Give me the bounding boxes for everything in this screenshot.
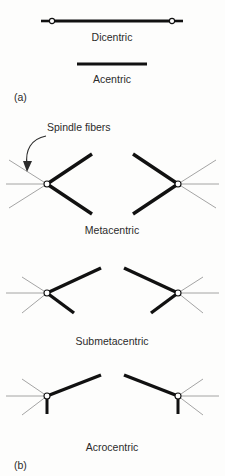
chromosome-arm-1	[47, 293, 74, 313]
label-submetacentric: Submetacentric	[76, 335, 149, 347]
centromere	[44, 393, 50, 399]
chromosome-arm-0	[47, 154, 92, 184]
annotation-arrow-curve	[27, 136, 46, 165]
centromere	[44, 290, 50, 296]
spindle-fiber-2	[22, 396, 47, 415]
centromere-0	[49, 18, 54, 23]
centromere-1	[169, 18, 174, 23]
spindle-fiber-2	[22, 293, 47, 313]
chromosome-dicentric	[41, 18, 183, 23]
acrocentric-right-half	[124, 375, 219, 415]
label-metacentric: Metacentric	[85, 224, 139, 236]
label-acrocentric: Acrocentric	[86, 441, 139, 453]
chromosome-arm-0	[47, 268, 101, 293]
centromere	[175, 290, 181, 296]
centromere	[175, 393, 181, 399]
chromosome-figure: DicentricAcentric(a) MetacentricSubmetac…	[0, 0, 225, 476]
chromosome-submetacentric	[6, 268, 219, 313]
spindle-fiber-2	[178, 293, 203, 313]
chromosome-arm-0	[124, 268, 178, 293]
submetacentric-left-half	[6, 268, 101, 313]
centromere	[175, 181, 181, 187]
metacentric-left-half	[6, 154, 92, 214]
spindle-fiber-1	[178, 277, 203, 293]
spindle-fiber-1	[178, 160, 216, 184]
spindle-fiber-2	[178, 396, 203, 415]
panel-b-caption: (b)	[14, 459, 27, 471]
spindle-fiber-2	[9, 184, 47, 208]
chromosome-metacentric	[6, 154, 219, 214]
metacentric-right-half	[133, 154, 219, 214]
panel-a: DicentricAcentric(a)	[14, 18, 183, 103]
annotation-arrow-head	[23, 161, 32, 172]
centromere	[44, 181, 50, 187]
chromosome-arm-1	[151, 293, 178, 313]
spindle-fiber-2	[178, 184, 216, 208]
spindle-fibers-annotation	[23, 136, 46, 172]
chromosome-acrocentric	[6, 375, 219, 415]
label-acentric: Acentric	[93, 73, 131, 85]
spindle-fiber-1	[178, 379, 203, 396]
spindle-fiber-1	[22, 277, 47, 293]
spindle-fiber-1	[22, 379, 47, 396]
submetacentric-right-half	[124, 268, 219, 313]
spindle-fibers-label: Spindle fibers	[47, 121, 111, 133]
panel-b: MetacentricSubmetacentricAcrocentricSpin…	[6, 121, 219, 471]
chromosome-arm-0	[133, 154, 178, 184]
panel-a-caption: (a)	[14, 91, 27, 103]
acrocentric-left-half	[6, 375, 101, 415]
chromosome-arm-0	[124, 375, 178, 396]
chromosome-arm-0	[47, 375, 101, 396]
chromosome-arm-1	[133, 184, 178, 214]
chromosome-arm-1	[47, 184, 92, 214]
label-dicentric: Dicentric	[92, 31, 133, 43]
